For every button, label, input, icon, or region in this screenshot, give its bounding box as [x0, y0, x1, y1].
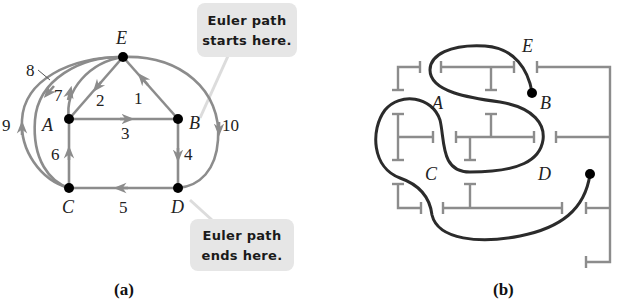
vertex-c — [64, 183, 74, 193]
edge-label-6: 6 — [51, 145, 60, 164]
euler-path-route — [376, 46, 590, 240]
edge-label-2: 2 — [96, 91, 105, 110]
room-label-e: E — [521, 36, 533, 56]
edge-label-9: 9 — [2, 116, 11, 135]
vertex-label-e: E — [115, 28, 127, 48]
room-label-b: B — [540, 93, 551, 113]
callout-end-line1: Euler path — [203, 228, 282, 243]
caption-a: (a) — [114, 280, 134, 299]
vertex-d — [173, 183, 183, 193]
room-label-a: A — [431, 93, 444, 113]
panel-b-floorplan: E B A C D (b) — [376, 36, 610, 299]
vertex-label-a: A — [41, 115, 54, 135]
euler-path-figure: Euler path starts here. Euler path ends … — [0, 0, 617, 305]
caption-b: (b) — [493, 280, 514, 299]
edge-label-4: 4 — [184, 145, 193, 164]
path-end-dot — [585, 169, 595, 179]
vertex-label-d: D — [170, 197, 184, 217]
vertex-label-c: C — [62, 197, 75, 217]
callout-start-line1: Euler path — [208, 13, 287, 28]
vertex-a — [64, 114, 74, 124]
path-start-dot — [527, 88, 537, 98]
edge-label-7: 7 — [54, 86, 63, 105]
vertex-b — [173, 114, 183, 124]
vertex-e — [118, 52, 128, 62]
edge-label-1: 1 — [134, 89, 143, 108]
callout-start-line2: starts here. — [202, 33, 291, 48]
callout-end-line2: ends here. — [202, 248, 283, 263]
edge-label-3: 3 — [121, 124, 130, 143]
edge-label-10: 10 — [222, 116, 239, 135]
room-label-c: C — [425, 164, 438, 184]
room-label-d: D — [537, 164, 551, 184]
edge-label-8: 8 — [26, 61, 35, 80]
edge-10 — [123, 57, 218, 188]
vertex-label-b: B — [189, 113, 200, 133]
callout-end: Euler path ends here. — [190, 200, 294, 271]
edge-1 — [123, 57, 178, 119]
edge-label-5: 5 — [119, 198, 128, 217]
panel-a-graph: Euler path starts here. Euler path ends … — [2, 3, 297, 299]
